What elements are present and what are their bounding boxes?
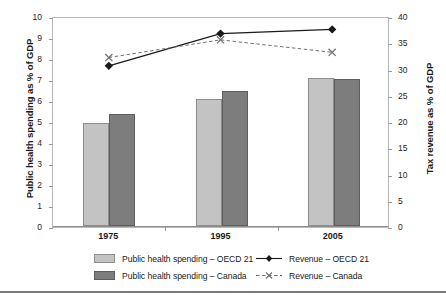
legend-label-0: Public health spending – OECD 21 <box>122 254 253 264</box>
right-tick-mark <box>388 71 392 72</box>
left-tick-label: 2 <box>2 181 42 190</box>
chart-legend: Public health spending – OECD 21Revenue … <box>94 251 374 285</box>
legend-label-2: Public health spending – Canada <box>122 271 247 281</box>
right-tick-mark <box>388 44 392 45</box>
x-axis-label-2005: 2005 <box>303 231 363 241</box>
x-tick-mark <box>278 227 279 231</box>
legend-label-1: Revenue – OECD 21 <box>289 254 369 264</box>
light-gray-square-swatch <box>94 254 115 263</box>
right-tick-label: 20 <box>398 118 438 127</box>
line-path-series1 <box>109 40 332 58</box>
dashed-line-x-marker <box>256 271 282 280</box>
right-tick-label: 5 <box>398 197 438 206</box>
right-tick-label: 15 <box>398 144 438 153</box>
left-tick-label: 0 <box>2 223 42 232</box>
left-tick-label: 5 <box>2 118 42 127</box>
left-tick-label: 6 <box>2 97 42 106</box>
x-axis-label-1975: 1975 <box>78 231 138 241</box>
diamond-marker-1975 <box>105 62 113 70</box>
solid-line-diamond-marker <box>256 254 282 263</box>
left-tick-label: 10 <box>2 13 42 22</box>
left-tick-label: 1 <box>2 202 42 211</box>
right-tick-mark <box>388 123 392 124</box>
left-tick-label: 4 <box>2 139 42 148</box>
right-tick-mark <box>388 202 392 203</box>
dark-gray-square-swatch <box>94 271 115 280</box>
legend-label-3: Revenue – Canada <box>289 271 362 281</box>
right-tick-label: 40 <box>398 13 438 22</box>
right-tick-mark <box>388 228 392 229</box>
line-series-container <box>53 18 388 227</box>
x-axis-label-1995: 1995 <box>191 231 251 241</box>
right-tick-label: 10 <box>398 171 438 180</box>
legend-item-3[interactable]: Revenue – Canada <box>256 268 362 283</box>
chart-figure: Public health spending as % of GDP Tax r… <box>0 0 446 303</box>
right-tick-mark <box>388 18 392 19</box>
diamond-marker-2005 <box>328 25 336 33</box>
left-tick-label: 3 <box>2 160 42 169</box>
right-tick-label: 0 <box>398 223 438 232</box>
left-tick-mark <box>49 228 53 229</box>
left-tick-label: 7 <box>2 76 42 85</box>
x-tick-mark <box>165 227 166 231</box>
right-tick-mark <box>388 97 392 98</box>
right-tick-mark <box>388 176 392 177</box>
right-tick-label: 25 <box>398 92 438 101</box>
legend-item-0[interactable]: Public health spending – OECD 21 <box>94 251 253 266</box>
plot-area: 012345678910 0510152025303540 <box>52 17 389 228</box>
right-tick-label: 30 <box>398 66 438 75</box>
legend-item-1[interactable]: Revenue – OECD 21 <box>256 251 369 266</box>
left-tick-label: 8 <box>2 55 42 64</box>
right-tick-mark <box>388 149 392 150</box>
left-tick-label: 9 <box>2 34 42 43</box>
footer-divider-rule <box>0 291 446 293</box>
right-tick-label: 35 <box>398 39 438 48</box>
legend-item-2[interactable]: Public health spending – Canada <box>94 268 247 283</box>
